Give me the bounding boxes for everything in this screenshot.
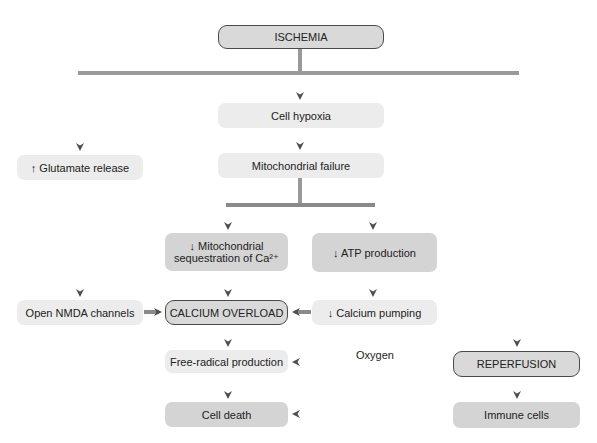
node-cell-death: Cell death (165, 402, 288, 427)
node-open-nmda-channels-label: Open NMDA channels (26, 307, 135, 319)
node-ischemia: ISCHEMIA (218, 25, 384, 49)
node-reperfusion-label: REPERFUSION (477, 358, 556, 370)
node-cell-death-label: Cell death (202, 409, 252, 421)
node-cell-hypoxia-label: Cell hypoxia (271, 110, 331, 122)
node-calcium-pumping: ↓ Calcium pumping (312, 300, 437, 325)
node-mitochondrial-failure: Mitochondrial failure (218, 153, 384, 178)
node-atp-production: ↓ ATP production (312, 233, 437, 272)
node-immune-cells: Immune cells (453, 402, 580, 428)
node-glutamate-release-label: ↑ Glutamate release (31, 162, 129, 174)
node-ischemia-label: ISCHEMIA (274, 31, 327, 43)
node-reperfusion: REPERFUSION (453, 351, 580, 377)
node-open-nmda-channels: Open NMDA channels (17, 300, 143, 325)
node-mito-seq-line2: sequestration of Ca²⁺ (174, 252, 279, 264)
node-calcium-pumping-label: ↓ Calcium pumping (328, 307, 422, 319)
node-calcium-overload-label: CALCIUM OVERLOAD (170, 307, 284, 319)
node-calcium-overload: CALCIUM OVERLOAD (165, 300, 288, 325)
node-atp-production-label: ↓ ATP production (333, 247, 416, 259)
edge-label-oxygen: Oxygen (356, 349, 394, 361)
node-mito-seq-line1: ↓ Mitochondrial (190, 240, 264, 252)
node-mitochondrial-sequestration: ↓ Mitochondrial sequestration of Ca²⁺ (165, 233, 288, 271)
node-free-radical-production: Free-radical production (165, 350, 288, 373)
node-free-radical-production-label: Free-radical production (170, 356, 283, 368)
node-glutamate-release: ↑ Glutamate release (17, 155, 143, 180)
node-immune-cells-label: Immune cells (484, 409, 549, 421)
node-mitochondrial-failure-label: Mitochondrial failure (252, 160, 350, 172)
node-cell-hypoxia: Cell hypoxia (218, 103, 384, 128)
